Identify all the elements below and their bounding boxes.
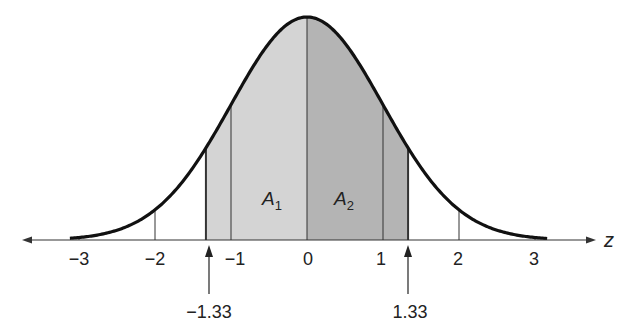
normal-curve-diagram: z −3 −2 −1 0 1 2 3 −1.33 1.33 A1 A2 — [0, 0, 618, 334]
axis-left-arrow-icon — [22, 237, 32, 244]
marker-label-right: 1.33 — [392, 302, 427, 322]
arrow-up-icon — [404, 245, 412, 257]
tick-label: −2 — [145, 249, 166, 269]
vertical-lines — [79, 17, 535, 240]
arrow-up-icon — [205, 245, 213, 257]
shaded-region-a1 — [206, 17, 307, 240]
tick-label: 2 — [453, 249, 463, 269]
tick-label: 0 — [303, 249, 313, 269]
tick-label: −3 — [69, 249, 90, 269]
axis-right-arrow-icon — [586, 237, 596, 244]
tick-label: 1 — [376, 249, 386, 269]
shaded-region-a2 — [307, 17, 408, 240]
tick-labels: −3 −2 −1 0 1 2 3 — [69, 249, 539, 269]
marker-label-left: −1.33 — [186, 302, 232, 322]
tick-label: 3 — [529, 249, 539, 269]
axis-label-z: z — [603, 229, 614, 251]
tick-label: −1 — [225, 249, 246, 269]
